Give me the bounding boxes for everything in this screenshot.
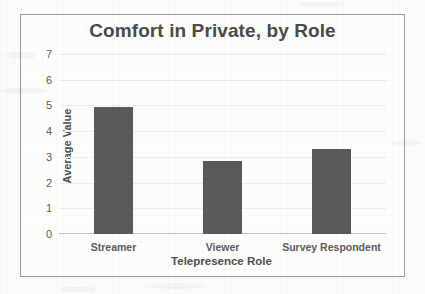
bar-group[interactable]: Streamer [94,54,132,234]
y-axis-tick-label: 5 [46,99,52,111]
bar-group[interactable]: Viewer [203,54,241,234]
scan-artifact [60,287,96,292]
bar[interactable] [94,107,132,234]
y-axis-tick-label: 7 [46,48,52,60]
chart-title: Comfort in Private, by Role [21,20,404,42]
bar[interactable] [203,161,241,234]
x-axis-title: Telepresence Role [59,255,384,267]
y-axis-tick-label: 2 [46,177,52,189]
scan-artifact [150,283,202,289]
y-axis-tick-label: 3 [46,151,52,163]
y-axis-tick-label: 4 [46,125,52,137]
plot-area: 01234567 StreamerViewerSurvey Respondent [59,54,386,234]
bar-group[interactable]: Survey Respondent [312,54,350,234]
y-axis-tick-label: 1 [46,202,52,214]
y-axis-tick-label: 0 [46,228,52,240]
scan-artifact [300,2,344,7]
x-axis-category-label: Survey Respondent [282,241,381,253]
x-axis-category-label: Viewer [206,241,240,253]
x-axis-category-label: Streamer [91,241,137,253]
bars-layer: StreamerViewerSurvey Respondent [59,54,386,234]
bar[interactable] [312,149,350,234]
chart-frame: Comfort in Private, by Role Average Valu… [20,14,405,277]
y-axis-tick-label: 6 [46,74,52,86]
